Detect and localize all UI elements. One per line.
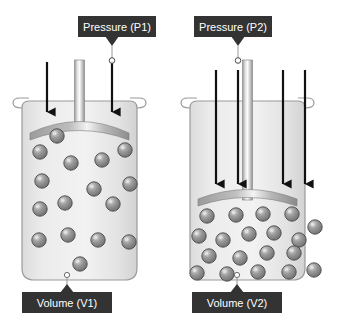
gas-molecule-right bbox=[256, 207, 270, 221]
molecule-highlight bbox=[285, 268, 289, 272]
gas-molecule-left bbox=[73, 257, 87, 271]
gas-molecule-left bbox=[61, 228, 75, 242]
molecule-highlight bbox=[254, 268, 258, 272]
gas-molecule-right bbox=[267, 226, 281, 240]
callout-pressure-left-dot bbox=[109, 58, 115, 64]
gas-molecule-left bbox=[123, 177, 137, 191]
molecule-highlight bbox=[98, 156, 102, 160]
callout-volume-right-label: Volume (V2) bbox=[207, 297, 268, 309]
molecule-highlight bbox=[203, 212, 207, 216]
molecule-highlight bbox=[64, 231, 68, 235]
volume-left-anchor-dot bbox=[64, 272, 69, 277]
molecule-highlight bbox=[219, 236, 223, 240]
gas-molecule-right bbox=[260, 246, 274, 260]
gas-molecule-left bbox=[50, 129, 64, 143]
molecule-highlight bbox=[94, 236, 98, 240]
callout-pressure-left-label: Pressure (P1) bbox=[83, 21, 151, 33]
callout-pressure-right-pointer bbox=[231, 36, 245, 46]
molecule-highlight bbox=[232, 211, 236, 215]
gas-molecule-right bbox=[308, 220, 322, 234]
gas-molecule-right bbox=[192, 229, 206, 243]
boyles-law-diagram: Volume (V1) Pressure (P1) bbox=[0, 0, 339, 328]
callout-pressure-right[interactable]: Pressure (P2) bbox=[194, 16, 272, 46]
gas-molecule-left bbox=[87, 182, 101, 196]
gas-molecule-left bbox=[35, 174, 49, 188]
gas-molecule-right bbox=[287, 246, 301, 260]
molecule-highlight bbox=[36, 148, 40, 152]
molecule-highlight bbox=[311, 223, 315, 227]
molecule-highlight bbox=[125, 238, 129, 242]
molecule-highlight bbox=[195, 232, 199, 236]
molecule-highlight bbox=[76, 260, 80, 264]
gas-molecule-right bbox=[307, 263, 321, 277]
panel-right-high-pressure: Volume (V2) Pressure (P2) bbox=[181, 16, 322, 313]
molecule-highlight bbox=[223, 270, 227, 274]
gas-molecule-left bbox=[33, 202, 47, 216]
gas-molecule-right bbox=[292, 233, 306, 247]
volume-right-anchor-dot bbox=[234, 272, 239, 277]
gas-molecule-right bbox=[220, 267, 234, 281]
gas-molecule-left bbox=[106, 197, 120, 211]
molecule-highlight bbox=[193, 269, 197, 273]
gas-molecule-right bbox=[202, 249, 216, 263]
molecule-highlight bbox=[205, 252, 209, 256]
gas-molecule-left bbox=[32, 233, 46, 247]
gas-molecule-left bbox=[33, 145, 47, 159]
piston-rod-right bbox=[243, 60, 253, 200]
molecule-highlight bbox=[90, 185, 94, 189]
molecule-highlight bbox=[35, 236, 39, 240]
molecule-highlight bbox=[67, 159, 71, 163]
gas-molecule-right bbox=[282, 265, 296, 279]
gas-molecule-left bbox=[118, 143, 132, 157]
callout-volume-left[interactable]: Volume (V1) bbox=[22, 284, 112, 313]
gas-molecule-left bbox=[91, 233, 105, 247]
molecule-highlight bbox=[270, 229, 274, 233]
molecule-highlight bbox=[38, 177, 42, 181]
molecule-highlight bbox=[245, 230, 249, 234]
gas-molecule-left bbox=[58, 196, 72, 210]
gas-molecule-right bbox=[229, 208, 243, 222]
callout-volume-left-pointer bbox=[60, 284, 74, 293]
gas-molecule-left bbox=[122, 235, 136, 249]
molecule-highlight bbox=[236, 254, 240, 258]
molecule-highlight bbox=[109, 200, 113, 204]
molecule-highlight bbox=[290, 249, 294, 253]
callout-volume-right[interactable]: Volume (V2) bbox=[192, 284, 282, 313]
callout-pressure-left[interactable]: Pressure (P1) bbox=[78, 16, 156, 46]
molecule-highlight bbox=[53, 132, 57, 136]
molecule-highlight bbox=[263, 249, 267, 253]
callout-volume-right-pointer bbox=[230, 284, 244, 293]
gas-molecule-right bbox=[216, 233, 230, 247]
callout-pressure-left-pointer bbox=[105, 36, 119, 46]
gas-molecule-left bbox=[95, 153, 109, 167]
molecule-highlight bbox=[295, 236, 299, 240]
molecule-highlight bbox=[288, 210, 292, 214]
gas-molecule-right bbox=[242, 227, 256, 241]
callout-volume-left-label: Volume (V1) bbox=[37, 297, 98, 309]
molecule-highlight bbox=[126, 180, 130, 184]
gas-molecule-right bbox=[200, 209, 214, 223]
molecule-highlight bbox=[61, 199, 65, 203]
piston-rod-left bbox=[75, 60, 85, 126]
gas-molecule-right bbox=[190, 266, 204, 280]
gas-molecule-right bbox=[285, 207, 299, 221]
callout-pressure-right-label: Pressure (P2) bbox=[199, 21, 267, 33]
molecule-highlight bbox=[121, 146, 125, 150]
molecule-highlight bbox=[310, 266, 314, 270]
gas-molecule-right bbox=[251, 265, 265, 279]
gas-molecule-right bbox=[233, 251, 247, 265]
molecule-highlight bbox=[259, 210, 263, 214]
callout-pressure-right-dot bbox=[235, 58, 241, 64]
panel-left-low-pressure: Volume (V1) Pressure (P1) bbox=[13, 16, 156, 313]
molecule-highlight bbox=[36, 205, 40, 209]
gas-molecule-left bbox=[64, 156, 78, 170]
